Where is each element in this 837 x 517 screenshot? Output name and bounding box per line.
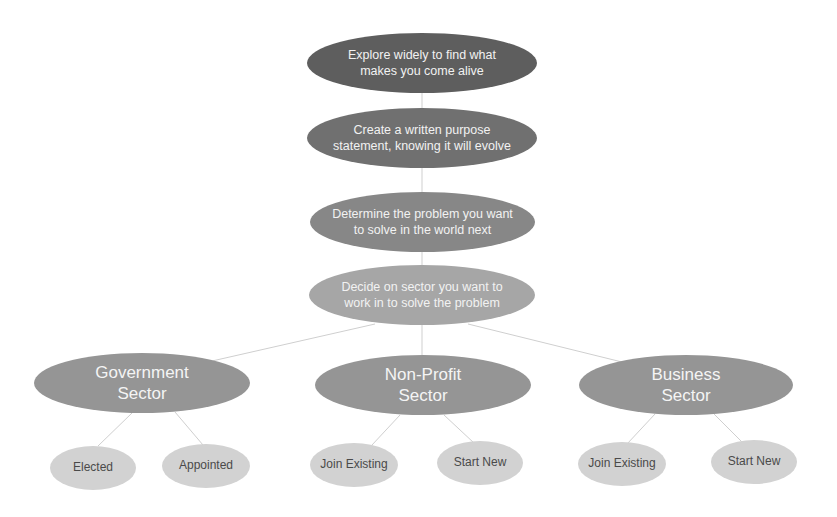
leaf-label: Start New [728,454,781,470]
connector-government-elected [98,413,132,446]
leaf-node-appointed: Appointed [162,444,250,488]
step-label: Decide on sector you want to work in to … [332,279,512,312]
connector-business-join [627,414,655,444]
leaf-label: Elected [73,460,113,476]
sector-label: Non-Profit Sector [373,364,473,407]
connector-government-appointed [175,412,203,445]
connector-business-start [713,413,742,442]
sector-label: Government Sector [82,362,202,405]
leaf-label: Join Existing [320,457,387,473]
step-node-determine-problem: Determine the problem you want to solve … [310,192,535,252]
connector-nonprofit-start [444,415,474,443]
leaf-node-business-join-existing: Join Existing [578,442,666,486]
sector-node-business: Business Sector [579,355,793,415]
leaf-node-elected: Elected [50,446,136,490]
sector-node-nonprofit: Non-Profit Sector [315,355,531,415]
leaf-label: Appointed [179,458,233,474]
leaf-label: Start New [454,455,507,471]
leaf-label: Join Existing [588,456,655,472]
step-label: Create a written purpose statement, know… [325,122,520,155]
connector-step4-business [468,324,622,362]
step-node-explore: Explore widely to find what makes you co… [307,33,537,93]
leaf-node-nonprofit-start-new: Start New [437,441,523,485]
step-label: Explore widely to find what makes you co… [337,47,507,80]
step-node-decide-sector: Decide on sector you want to work in to … [309,265,535,325]
sector-node-government: Government Sector [34,353,250,413]
connector-step4-government [212,324,375,361]
step-node-purpose-statement: Create a written purpose statement, know… [307,108,537,168]
leaf-node-business-start-new: Start New [711,440,797,484]
connector-nonprofit-join [372,415,400,445]
step-label: Determine the problem you want to solve … [328,206,518,239]
leaf-node-nonprofit-join-existing: Join Existing [310,443,398,487]
sector-label: Business Sector [641,364,731,407]
